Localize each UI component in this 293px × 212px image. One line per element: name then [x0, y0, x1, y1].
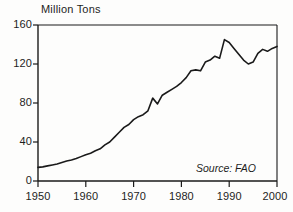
y-axis-title: Million Tons	[41, 3, 101, 15]
y-tick-label-160: 160	[6, 18, 32, 30]
y-tick-label-0: 0	[6, 174, 32, 186]
y-tick-label-120: 120	[6, 57, 32, 69]
x-tick-marks	[38, 181, 277, 187]
plot-area	[0, 0, 293, 212]
source-annotation: Source: FAO	[196, 162, 256, 174]
y-tick-label-80: 80	[6, 96, 32, 108]
x-tick-label-1970: 1970	[121, 190, 146, 202]
x-tick-label-1950: 1950	[26, 190, 51, 202]
y-tick-marks	[33, 25, 38, 181]
y-tick-label-40: 40	[6, 135, 32, 147]
chart-container: Million Tons 160 120 80 40 0	[0, 0, 293, 212]
x-tick-label-1990: 1990	[217, 190, 242, 202]
x-tick-label-1980: 1980	[169, 190, 194, 202]
x-tick-label-2000: 2000	[263, 190, 288, 202]
x-tick-label-1960: 1960	[73, 190, 98, 202]
data-series-line	[38, 40, 277, 168]
